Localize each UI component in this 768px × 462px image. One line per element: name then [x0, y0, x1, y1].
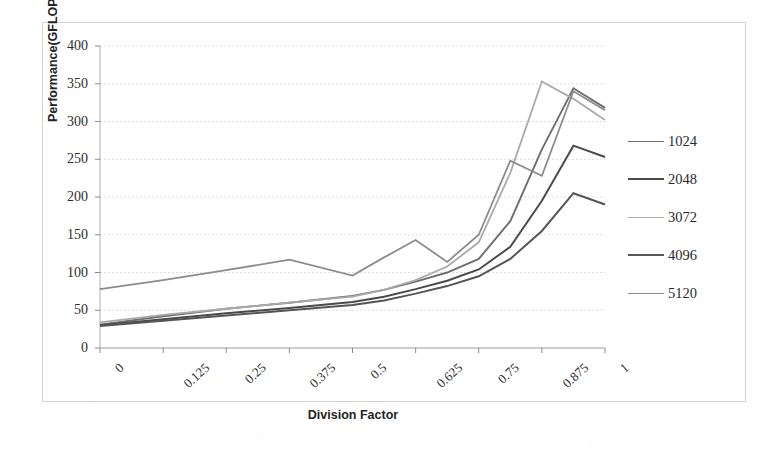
- y-tick-label: 200: [42, 190, 88, 204]
- x-axis-title: Division Factor: [100, 408, 606, 422]
- series-line-5120: [100, 91, 605, 289]
- legend-label: 3072: [668, 209, 697, 226]
- legend-label: 2048: [668, 171, 697, 188]
- series-line-3072: [100, 81, 605, 322]
- series-line-1024: [100, 88, 605, 324]
- legend-item-5120: 5120: [628, 274, 697, 312]
- legend-item-2048: 2048: [628, 160, 697, 198]
- y-tick-label: 300: [42, 115, 88, 129]
- legend-item-3072: 3072: [628, 198, 697, 236]
- legend-swatch-icon: [628, 293, 664, 294]
- legend-swatch-icon: [628, 254, 664, 256]
- y-tick-label: 250: [42, 152, 88, 166]
- legend-label: 1024: [668, 133, 697, 150]
- series-line-4096: [100, 193, 605, 326]
- y-tick-label: 350: [42, 77, 88, 91]
- y-tick-label: 100: [42, 266, 88, 280]
- legend-swatch-icon: [628, 141, 664, 142]
- y-tick-label: 0: [42, 341, 88, 355]
- line-chart: Performance(GFLOPS) Division Factor 0501…: [0, 0, 768, 462]
- y-tick-label: 50: [42, 303, 88, 317]
- legend-item-1024: 1024: [628, 122, 697, 160]
- series-line-2048: [100, 146, 605, 326]
- legend-item-4096: 4096: [628, 236, 697, 274]
- legend-swatch-icon: [628, 217, 664, 218]
- legend-label: 4096: [668, 247, 697, 264]
- chart-legend: 10242048307240965120: [628, 122, 697, 312]
- y-tick-label: 400: [42, 39, 88, 53]
- legend-label: 5120: [668, 285, 697, 302]
- legend-swatch-icon: [628, 178, 664, 180]
- y-tick-label: 150: [42, 228, 88, 242]
